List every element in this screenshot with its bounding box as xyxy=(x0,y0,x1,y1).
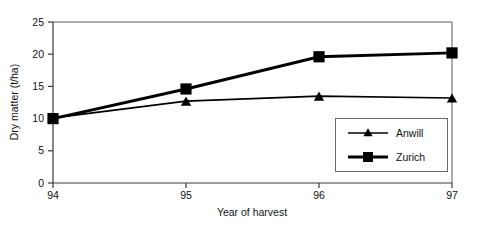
legend-label-anwill: Anwill xyxy=(396,127,423,139)
legend-box xyxy=(336,119,448,172)
y-tick-label-25: 25 xyxy=(32,16,44,28)
x-tick-label-96: 96 xyxy=(313,189,325,201)
legend-label-zurich: Zurich xyxy=(396,151,425,163)
data-point-square xyxy=(180,83,191,94)
data-point-square xyxy=(47,113,58,124)
y-tick-label-5: 5 xyxy=(38,144,44,156)
legend: Anwill Zurich xyxy=(336,119,448,172)
legend-square-marker-icon xyxy=(363,152,373,162)
y-tick-label-15: 15 xyxy=(32,80,44,92)
chart-figure: 0 5 10 15 20 25 94 95 96 97 Dry matter (… xyxy=(0,0,478,225)
x-tick-label-95: 95 xyxy=(180,189,192,201)
line-chart: 0 5 10 15 20 25 94 95 96 97 Dry matter (… xyxy=(0,0,478,225)
x-axis-title: Year of harvest xyxy=(217,206,287,218)
data-point-square xyxy=(313,51,324,62)
data-point-square xyxy=(446,47,457,58)
y-tick-label-0: 0 xyxy=(38,177,44,189)
x-tick-label-97: 97 xyxy=(446,189,458,201)
y-tick-label-10: 10 xyxy=(32,112,44,124)
y-tick-label-20: 20 xyxy=(32,48,44,60)
y-axis-title: Dry matter (t/ha) xyxy=(8,64,20,140)
x-tick-label-94: 94 xyxy=(47,189,59,201)
